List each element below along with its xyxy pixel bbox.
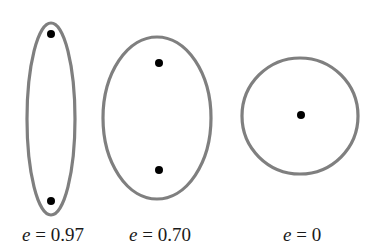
focus-point [47, 30, 55, 38]
eccentricity-value: 0 [312, 224, 322, 245]
eccentricity-diagram [0, 0, 376, 250]
ellipse-high-eccentricity [27, 23, 75, 215]
eccentricity-value: 0.97 [51, 224, 84, 245]
equals-sign: = [291, 224, 311, 245]
equals-sign: = [137, 224, 157, 245]
focus-point [155, 59, 163, 67]
center-point [297, 111, 305, 119]
label-e-0-70: e = 0.70 [129, 224, 191, 246]
label-e-0-97: e = 0.97 [22, 224, 84, 246]
eccentricity-value: 0.70 [158, 224, 191, 245]
focus-point [47, 197, 55, 205]
label-e-0: e = 0 [283, 224, 321, 246]
focus-point [155, 166, 163, 174]
equals-sign: = [30, 224, 50, 245]
